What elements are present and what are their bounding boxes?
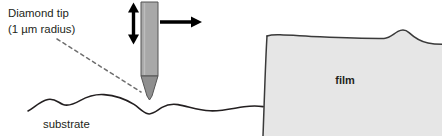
- probe-shank: [141, 2, 158, 76]
- film-label: film: [335, 74, 355, 86]
- substrate-surface-curve: [28, 95, 263, 114]
- substrate-group: [28, 95, 263, 114]
- diamond-tip-label-line2: (1 µm radius): [8, 23, 76, 35]
- substrate-label: substrate: [43, 118, 90, 130]
- horizontal-scan-arrow: [160, 17, 202, 28]
- dashed-pointer-line: [57, 39, 141, 92]
- diamond-stylus-probe: [141, 2, 158, 100]
- probe-conical-tip: [141, 76, 158, 100]
- diagram-canvas: Diamond tip (1 µm radius) substrate film: [0, 0, 442, 136]
- horizontal-arrow-head: [191, 17, 202, 28]
- vertical-arrow-head-down: [128, 35, 139, 45]
- profilometer-diagram: Diamond tip (1 µm radius) substrate film: [0, 0, 442, 136]
- vertical-double-arrow: [128, 3, 139, 45]
- vertical-arrow-head-up: [128, 3, 139, 13]
- diamond-tip-label-line1: Diamond tip: [8, 7, 69, 19]
